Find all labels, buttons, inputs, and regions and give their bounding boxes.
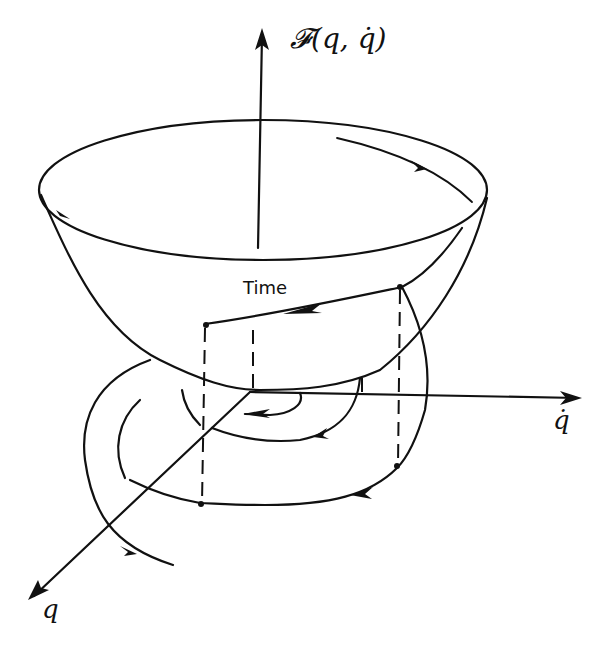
surface-point-left: [203, 322, 209, 328]
projection-line-right: [398, 290, 400, 466]
projection-line-left: [202, 328, 205, 503]
qdot-axis-label: q̇: [553, 405, 570, 435]
spiral-outer: [130, 287, 428, 505]
vertical-axis-label: 𝓕(q, q̇): [290, 22, 387, 56]
phase-point-left: [198, 501, 204, 507]
rim-arrowhead: [410, 160, 427, 172]
second-left-arc: [118, 400, 140, 478]
spiral-inner: [245, 393, 301, 415]
outer-left-arc: [84, 360, 173, 565]
spiral-inner-arrowhead: [243, 409, 270, 418]
bowl-diagram: [0, 0, 601, 652]
surface-trajectory: [205, 228, 462, 324]
spiral-middle-left: [182, 390, 200, 425]
q-axis: [34, 392, 250, 596]
vertical-axis: [258, 35, 262, 248]
phase-point-right: [394, 463, 400, 469]
time-label: Time: [243, 277, 287, 298]
q-axis-label: q: [42, 594, 59, 624]
bowl-rim: [39, 120, 487, 260]
spiral-middle-arrowhead: [313, 428, 329, 439]
rim-trajectory-arrow: [337, 138, 472, 202]
